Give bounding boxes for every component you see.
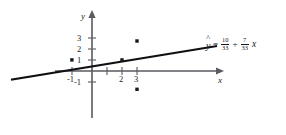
x-tick-label--1: -1 <box>67 74 74 84</box>
equation-plus: + <box>230 40 240 49</box>
plot-canvas <box>0 0 286 135</box>
y-tick-label-2: 2 <box>77 44 81 54</box>
y-axis-label: y <box>81 11 85 21</box>
y-tick-label--1: -1 <box>74 77 81 87</box>
y-axis-arrow-icon <box>88 10 95 18</box>
intercept-numerator: 10 <box>221 37 229 44</box>
regression-line <box>12 46 216 79</box>
equation-variable: x <box>249 40 256 50</box>
scatter-plot-figure: 3 2 1 -1 -1 2 3 y x ^ y = 10 33 + 7 33 x <box>0 0 286 135</box>
x-axis-arrow-icon <box>216 67 224 74</box>
regression-equation: ^ y = 10 33 + 7 33 x <box>206 37 256 52</box>
y-tick-label-1: 1 <box>77 55 81 65</box>
data-point <box>135 39 138 42</box>
hat-accent-icon: ^ <box>206 35 210 43</box>
intercept-denominator: 33 <box>221 44 229 52</box>
equation-equals: = <box>210 40 220 49</box>
equation-slope-fraction: 7 33 <box>240 37 249 52</box>
x-tick-label-2: 2 <box>119 74 123 84</box>
x-axis-label: x <box>218 75 222 85</box>
equation-yhat: ^ y <box>206 39 210 51</box>
slope-numerator: 7 <box>242 37 247 44</box>
equation-intercept-fraction: 10 33 <box>221 37 230 52</box>
y-tick-label-3: 3 <box>77 33 81 43</box>
data-point <box>120 58 123 61</box>
x-tick-label-3: 3 <box>134 74 138 84</box>
data-point <box>135 88 138 91</box>
data-point <box>70 58 73 61</box>
slope-denominator: 33 <box>241 44 249 52</box>
